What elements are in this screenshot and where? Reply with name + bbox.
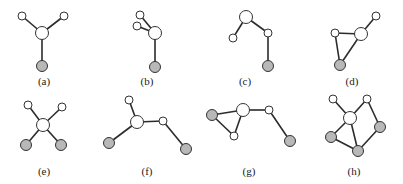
hub-node	[37, 119, 50, 132]
gray-node	[104, 138, 115, 149]
hub-node	[344, 112, 357, 125]
white-node	[363, 95, 371, 103]
white-node	[136, 11, 144, 19]
white-node	[58, 103, 66, 111]
white-node	[372, 12, 380, 20]
panel-label: (f)	[142, 165, 153, 178]
white-node	[230, 132, 238, 140]
panel-label: (c)	[239, 75, 252, 88]
hub-node	[237, 104, 250, 117]
white-node	[264, 29, 272, 37]
panel-label: (e)	[38, 165, 51, 178]
gray-node	[326, 132, 337, 143]
graph-panel: (b)	[133, 11, 162, 88]
white-node	[229, 34, 237, 42]
hub-node	[131, 116, 144, 129]
white-node	[125, 96, 133, 104]
hub-node	[240, 11, 253, 24]
hub-node	[149, 27, 162, 40]
panel-label: (g)	[243, 165, 256, 178]
graph-panel: (a)	[18, 12, 68, 88]
graph-panel: (g)	[207, 104, 296, 179]
graph-panel: (f)	[104, 96, 192, 178]
graph-panel: (e)	[21, 101, 67, 178]
gray-node	[285, 136, 296, 147]
white-node	[331, 29, 339, 37]
panel-label: (h)	[348, 165, 361, 178]
white-node	[133, 22, 141, 30]
white-node	[329, 95, 337, 103]
panel-label: (d)	[346, 75, 359, 88]
gray-node	[56, 140, 67, 151]
hub-node	[36, 27, 49, 40]
gray-node	[37, 61, 48, 72]
gray-node	[207, 110, 218, 121]
gray-node	[181, 144, 192, 155]
gray-node	[21, 140, 32, 151]
gray-node	[263, 61, 274, 72]
graph-figure: (a)(b)(c)(d)(e)(f)(g)(h)	[0, 0, 403, 184]
white-node	[265, 106, 273, 114]
gray-node	[375, 122, 386, 133]
gray-node	[150, 62, 161, 73]
white-node	[60, 12, 68, 20]
graph-panel: (h)	[326, 95, 386, 178]
graph-panel: (d)	[331, 12, 380, 88]
hub-node	[355, 28, 368, 41]
gray-node	[353, 146, 364, 157]
gray-node	[335, 60, 346, 71]
white-node	[24, 101, 32, 109]
graph-panel: (c)	[229, 11, 274, 89]
panel-label: (b)	[141, 75, 154, 88]
panel-label: (a)	[38, 75, 51, 88]
white-node	[18, 12, 26, 20]
white-node	[159, 117, 167, 125]
